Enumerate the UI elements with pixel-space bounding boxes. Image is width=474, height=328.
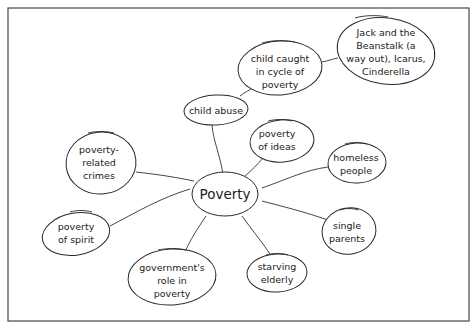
node-label-line-2: in cycle of [256,66,305,77]
node-label-line-1: Jack and the [356,27,416,38]
node-starving-elderly[interactable]: starving elderly [246,252,308,293]
node-label-line-2: role in [157,275,187,286]
edge-poverty-child-abuse [212,125,223,174]
node-label-line-1: child caught [251,53,310,64]
bubble [333,12,439,91]
node-poverty-of-spirit[interactable]: poverty of spirit [39,207,113,260]
node-child-caught[interactable]: child caught in cycle of poverty [236,38,324,98]
node-label-line-1: homeless [333,152,378,163]
pen-flick [70,211,92,213]
node-label-line-1: poverty [259,128,296,139]
edge-poverty-elderly [242,216,270,254]
node-label-line-2: of ideas [258,141,296,152]
node-poverty-related-crimes[interactable]: poverty- related crimes [63,129,139,198]
edge-poverty-single-parents [262,201,328,220]
edge-poverty-government [185,216,206,252]
node-label: child abuse [189,105,243,116]
node-label-line-3: poverty [262,79,299,90]
node-label-line-2: Beanstalk (a [356,40,415,51]
node-label-line-3: poverty [154,288,191,299]
node-label-line-1: starving [258,261,297,272]
node-label-line-1: government's [139,262,205,273]
center-label: Poverty [199,186,250,202]
node-label-line-2: elderly [261,274,294,285]
bubble [318,204,379,259]
edge-poverty-spirit [110,189,190,226]
node-label-line-2: of spirit [58,234,94,245]
node-homeless-people[interactable]: homeless people [327,142,387,185]
edge-child-caught-fairy-tales [322,58,338,62]
node-single-parents[interactable]: single parents [318,204,379,259]
node-label-line-1: poverty [58,221,95,232]
mind-map-canvas: Poverty child abuse child caught in cycl… [0,0,474,328]
node-child-abuse[interactable]: child abuse [183,93,248,126]
bubble [246,252,308,293]
edge-poverty-homeless [262,167,328,188]
node-label-line-1: single [333,220,361,231]
node-label-line-4: Cinderella [362,66,410,77]
edge-poverty-crimes [136,172,194,181]
node-label-line-1: poverty- [79,144,119,155]
edge-poverty-ideas [245,158,263,176]
bubble [327,142,387,185]
node-fairy-tales[interactable]: Jack and the Beanstalk (a way out), Icar… [333,12,439,91]
node-governments-role[interactable]: government's role in poverty [126,246,218,308]
node-label-line-2: people [340,165,372,176]
node-poverty-center[interactable]: Poverty [192,172,258,216]
node-label-line-3: crimes [83,170,115,181]
node-label-line-2: related [82,157,116,168]
node-label-line-3: way out), Icarus, [346,53,425,64]
node-label-line-2: parents [329,233,365,244]
node-poverty-of-ideas[interactable]: poverty of ideas [248,117,315,164]
